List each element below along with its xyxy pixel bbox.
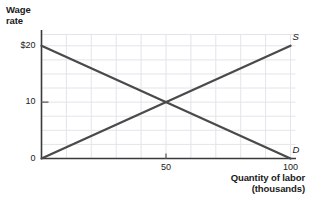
- x-axis-title: Quantity of labor (thousands): [150, 173, 305, 194]
- curve-label-D: D: [293, 144, 300, 155]
- x-axis-title-line-2: (thousands): [150, 184, 305, 195]
- x-tick-label-100: 100: [271, 162, 311, 172]
- x-axis-title-line-1: Quantity of labor: [150, 173, 305, 184]
- horizontal-gridlines: [42, 35, 296, 145]
- y-tick-label-20: $20: [6, 40, 36, 50]
- wage-rate-supply-demand-chart: Wage rate 010$20 50100 DS Quantity of la…: [0, 0, 311, 209]
- curve-label-S: S: [293, 31, 299, 42]
- axis-lines: [42, 30, 297, 159]
- y-tick-label-0: 0: [6, 153, 36, 163]
- y-tick-label-10: 10: [6, 96, 36, 106]
- x-tick-label-50: 50: [146, 162, 186, 172]
